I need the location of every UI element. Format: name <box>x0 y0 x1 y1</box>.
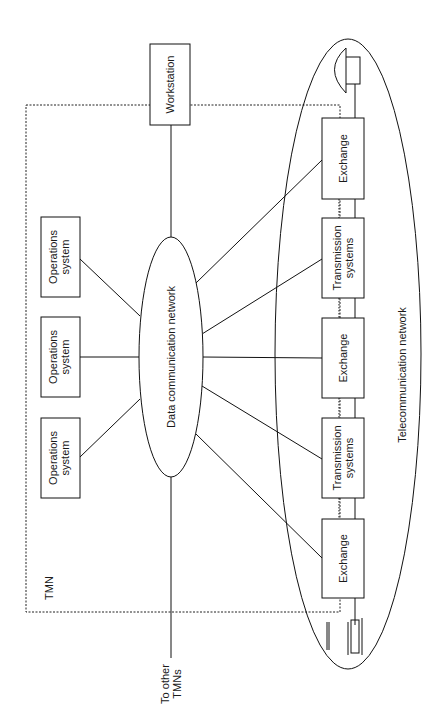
exchange-1: Exchange <box>322 118 364 199</box>
operations-system-1: Operationssystem <box>41 217 80 297</box>
workstation-node: Workstation <box>150 44 190 125</box>
svg-text:Exchange: Exchange <box>337 334 349 383</box>
telephone-icon <box>335 48 361 93</box>
transmission-systems-1: Transmissionsystems <box>322 218 364 298</box>
operations-system-2: Operationssystem <box>41 317 80 397</box>
svg-text:Exchange: Exchange <box>337 134 349 183</box>
telecom-network-label: Telecommunication network <box>396 307 408 443</box>
exchange-2: Exchange <box>322 318 364 398</box>
transmission-systems-2: Transmissionsystems <box>322 418 364 498</box>
tmn-label: TMN <box>43 576 55 600</box>
dcn-label: Data communication network <box>165 286 177 428</box>
terminal-device-icon <box>327 618 362 655</box>
exchange-3: Exchange <box>322 519 364 598</box>
operations-system-3: Operationssystem <box>41 418 80 498</box>
svg-text:Exchange: Exchange <box>337 534 349 583</box>
svg-text:Workstation: Workstation <box>164 56 176 114</box>
tmn-diagram: Workstation Operationssystem Operationss… <box>0 0 435 718</box>
to-other-tmns-label: To otherTMNs <box>159 664 183 704</box>
